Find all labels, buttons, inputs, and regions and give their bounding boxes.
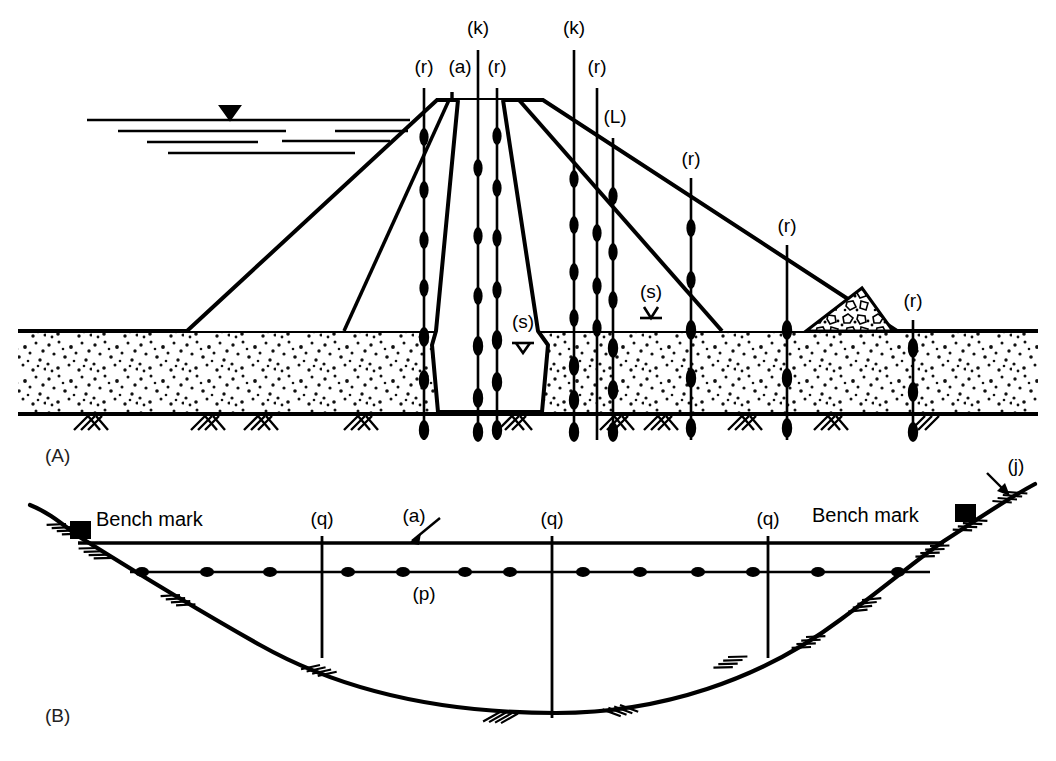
callout-label-q2: (q): [540, 508, 563, 529]
callout-label-r3: (r): [588, 56, 607, 77]
bead-markers: [908, 338, 918, 442]
figure-canvas: (r) (a) (r) (k) (k) (r) (L) (r) (r) (r) …: [0, 0, 1056, 761]
panel-b-group: Bench mark Bench mark (q) (a) (q) (q) (p…: [30, 455, 1035, 726]
water-level-triangle-icon: [220, 106, 240, 120]
panel-a-label: (A): [45, 445, 70, 466]
callout-label-r1: (r): [415, 56, 434, 77]
bench-mark-left-symbol: [70, 521, 91, 539]
callout-label-s1: (s): [512, 311, 534, 332]
callout-label-k2: (k): [563, 17, 585, 38]
callout-label-j1: (j): [1008, 455, 1025, 476]
callout-label-q3: (q): [756, 508, 779, 529]
callout-label-s2: (s): [640, 281, 662, 302]
callout-label-p1: (p): [412, 583, 435, 604]
bedrock-hatch-group: [74, 416, 939, 430]
callout-label-r6: (r): [904, 290, 923, 311]
callout-label-L1: (L): [603, 106, 626, 127]
callout-label-k1: (k): [467, 17, 489, 38]
panel-b-label: (B): [45, 705, 70, 726]
callout-label-q1: (q): [310, 508, 333, 529]
callout-label-r4: (r): [682, 148, 701, 169]
crest-callout-arrowhead: [409, 533, 421, 545]
callout-label-a2: (a): [402, 505, 425, 526]
bench-mark-right-symbol: [955, 504, 976, 522]
reservoir-water-surface: [87, 120, 410, 153]
callout-label-a1: (a): [448, 56, 471, 77]
bench-mark-right-label: Bench mark: [812, 504, 920, 526]
panel-a-group: (r) (a) (r) (k) (k) (r) (L) (r) (r) (r) …: [18, 17, 1038, 466]
engineering-diagram: (r) (a) (r) (k) (k) (r) (L) (r) (r) (r) …: [0, 0, 1056, 761]
bench-mark-left-label: Bench mark: [96, 508, 204, 530]
callout-label-r2: (r): [488, 56, 507, 77]
callout-label-r5: (r): [778, 215, 797, 236]
